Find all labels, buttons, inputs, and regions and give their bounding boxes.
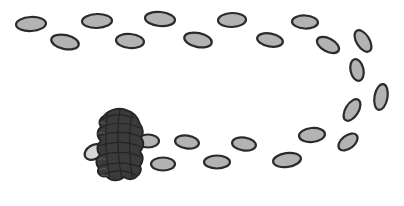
footprints-layer bbox=[16, 11, 390, 171]
footprint bbox=[340, 96, 364, 123]
footprint bbox=[50, 32, 80, 52]
footprint bbox=[335, 130, 360, 154]
footprint bbox=[256, 31, 284, 48]
footprint bbox=[298, 127, 325, 143]
footprint bbox=[231, 136, 257, 152]
footprint bbox=[272, 151, 302, 169]
footprint bbox=[174, 134, 200, 150]
footprint bbox=[151, 158, 175, 171]
footprint bbox=[204, 156, 230, 169]
footprint bbox=[16, 16, 47, 32]
footprint bbox=[372, 83, 389, 111]
footprint bbox=[218, 13, 246, 28]
footprint bbox=[351, 27, 375, 54]
footprint bbox=[314, 34, 341, 57]
scribbled-out-blob bbox=[96, 109, 143, 180]
footprint bbox=[82, 13, 112, 28]
footprint-path-illustration bbox=[0, 0, 404, 206]
footprint bbox=[115, 33, 144, 49]
footprint-path-drawing bbox=[0, 0, 404, 206]
footprint bbox=[292, 15, 319, 29]
footprint bbox=[144, 11, 175, 28]
footprint bbox=[348, 58, 365, 82]
footprint bbox=[183, 30, 213, 50]
